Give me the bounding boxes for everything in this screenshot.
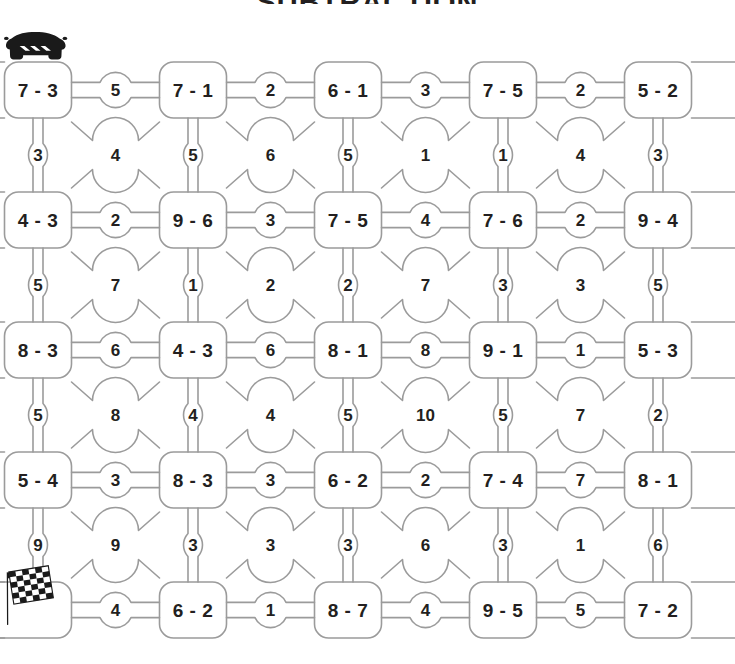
checkered-flag-icon — [7, 566, 54, 625]
car-icon — [4, 32, 67, 60]
icon-layer — [0, 0, 735, 664]
maze-worksheet-page: SUBTRACTION 7 - 37 - 16 - 17 - 55 - 24 -… — [0, 0, 735, 664]
